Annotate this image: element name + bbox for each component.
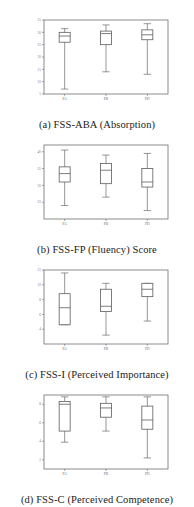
y-tick-label: 8: [39, 402, 41, 406]
caption-c: (c) FSS-I (Perceived Importance): [0, 368, 194, 382]
y-tick-label: 15: [38, 68, 42, 72]
caption-a: (a) FSS-ABA (Absorption): [0, 118, 194, 132]
panel-c: 4681012PAPBPD (c) FSS-I (Perceived Impor…: [0, 264, 194, 382]
boxplot-svg-c: 4681012PAPBPD: [22, 264, 172, 360]
x-tick-label: PD: [145, 97, 150, 101]
panel-d: 2468PAPBPD (d) FSS-C (Perceived Competen…: [0, 389, 194, 507]
y-tick-label: 35: [38, 167, 42, 171]
box: [59, 401, 70, 431]
boxplot-figure: 5101520253035PAPBPD (a) FSS-ABA (Absorpt…: [0, 0, 194, 507]
y-tick-label: 6: [39, 421, 41, 425]
y-tick-label: 8: [39, 298, 41, 302]
box: [59, 294, 70, 325]
y-tick-label: 5: [39, 92, 41, 96]
caption-b: (b) FSS-FP (Fluency) Score: [0, 243, 194, 257]
x-tick-label: PB: [104, 222, 109, 226]
boxplot-svg-b: 25303540PAPBPD: [22, 139, 172, 235]
box: [101, 289, 112, 311]
boxplot-svg-a: 5101520253035PAPBPD: [22, 14, 172, 110]
y-tick-label: 30: [38, 31, 42, 35]
caption-d: (d) FSS-C (Perceived Competence): [0, 493, 194, 507]
x-tick-label: PD: [145, 347, 150, 351]
box: [142, 283, 153, 296]
box: [142, 169, 153, 188]
x-tick-label: PD: [145, 222, 150, 226]
plot-area-b: 25303540PAPBPD: [22, 139, 172, 235]
box: [142, 406, 153, 429]
y-tick-label: 6: [39, 313, 41, 317]
x-tick-label: PB: [104, 472, 109, 476]
plot-area-d: 2468PAPBPD: [22, 389, 172, 485]
box: [59, 32, 70, 42]
y-tick-label: 30: [38, 184, 42, 188]
y-tick-label: 40: [38, 150, 42, 154]
plot-area-c: 4681012PAPBPD: [22, 264, 172, 360]
x-tick-label: PB: [104, 347, 109, 351]
box: [59, 167, 70, 182]
panel-a: 5101520253035PAPBPD (a) FSS-ABA (Absorpt…: [0, 14, 194, 132]
x-tick-label: PA: [63, 347, 68, 351]
panel-b: 25303540PAPBPD (b) FSS-FP (Fluency) Scor…: [0, 139, 194, 257]
y-tick-label: 4: [39, 439, 41, 443]
box: [101, 164, 112, 184]
y-tick-label: 4: [39, 327, 41, 331]
y-tick-label: 25: [38, 200, 42, 204]
x-tick-label: PA: [63, 472, 68, 476]
y-tick-label: 20: [38, 55, 42, 59]
x-tick-label: PD: [145, 472, 150, 476]
y-tick-label: 25: [38, 43, 42, 47]
plot-area-a: 5101520253035PAPBPD: [22, 14, 172, 110]
boxplot-svg-d: 2468PAPBPD: [22, 389, 172, 485]
y-tick-label: 10: [38, 80, 42, 84]
x-tick-label: PA: [63, 222, 68, 226]
x-tick-label: PB: [104, 97, 109, 101]
x-tick-label: PA: [63, 97, 68, 101]
box: [101, 403, 112, 417]
y-tick-label: 10: [38, 283, 42, 287]
box: [101, 31, 112, 45]
y-tick-label: 35: [38, 18, 42, 22]
y-tick-label: 2: [39, 458, 41, 462]
y-tick-label: 12: [38, 268, 42, 272]
